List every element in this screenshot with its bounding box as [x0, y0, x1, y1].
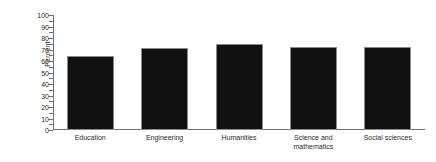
y-axis-tick-label: 40 [28, 81, 49, 88]
y-axis-minor-tick-mark [49, 44, 53, 45]
x-axis-category-label: Engineering [127, 133, 201, 142]
y-axis-tick-mark [48, 119, 53, 120]
y-axis-minor-tick-mark [49, 101, 53, 102]
bar [67, 56, 114, 130]
bar-chart: Percent 1009080706050403020100 Education… [0, 0, 436, 162]
y-axis-tick-mark [48, 27, 53, 28]
y-axis-tick-label: 50 [28, 69, 49, 76]
y-axis-tick-label: 0 [28, 127, 49, 134]
y-axis-minor-tick-mark [49, 67, 53, 68]
x-axis-category-label: Humanities [202, 133, 276, 142]
y-axis-tick-mark [48, 73, 53, 74]
y-axis-tick-label: 30 [28, 92, 49, 99]
y-axis-tick-mark [48, 50, 53, 51]
y-axis-minor-tick-mark [49, 113, 53, 114]
bar [141, 48, 188, 130]
y-axis-minor-tick-mark [49, 78, 53, 79]
plot-area [53, 15, 425, 130]
bars-layer [53, 15, 425, 130]
bar [216, 44, 263, 130]
y-axis-tick-mark [48, 130, 53, 131]
x-axis-category-label: Science and mathematics [276, 133, 350, 151]
x-axis-category-labels: EducationEngineeringHumanitiesScience an… [53, 133, 425, 159]
bar [364, 47, 411, 130]
y-axis-minor-tick-mark [49, 90, 53, 91]
y-axis-tick-mark [48, 96, 53, 97]
y-axis-minor-tick-mark [49, 21, 53, 22]
x-axis-category-label: Social sciences [351, 133, 425, 142]
y-axis-minor-tick-mark [49, 32, 53, 33]
y-axis-tick-label: 20 [28, 104, 49, 111]
x-axis-category-label: Education [53, 133, 127, 142]
y-axis-tick-mark [48, 84, 53, 85]
y-axis-tick-label: 80 [28, 35, 49, 42]
y-axis-tick-mark [48, 61, 53, 62]
y-axis-tick-label: 100 [28, 12, 49, 19]
y-axis-tick-mark [48, 15, 53, 16]
y-axis-tick-label: 10 [28, 115, 49, 122]
y-axis-tick-mark [48, 107, 53, 108]
y-axis-tick-label: 70 [28, 46, 49, 53]
y-axis-minor-tick-mark [49, 55, 53, 56]
bar [290, 47, 337, 130]
y-axis-minor-tick-mark [49, 124, 53, 125]
y-axis-tick-label: 60 [28, 58, 49, 65]
y-axis-tick-mark [48, 38, 53, 39]
y-axis-tick-label: 90 [28, 23, 49, 30]
y-axis-tick-labels: 1009080706050403020100 [28, 15, 49, 130]
